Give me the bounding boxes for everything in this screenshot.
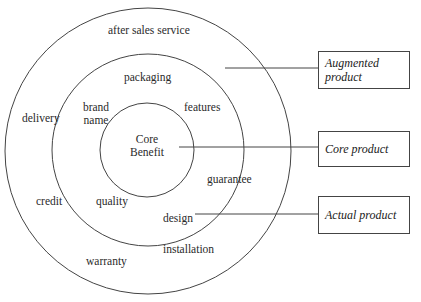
- augmented-box-line1: Augmented: [325, 56, 403, 70]
- actual-product-box: Actual product: [318, 196, 410, 234]
- label-warranty: warranty: [86, 255, 127, 268]
- label-installation: installation: [163, 243, 214, 256]
- augmented-product-box: Augmented product: [318, 51, 410, 89]
- label-design: design: [163, 212, 193, 225]
- core-product-box: Core product: [318, 131, 410, 167]
- label-quality: quality: [96, 195, 128, 208]
- brand-line1: brand: [76, 101, 116, 114]
- label-packaging: packaging: [124, 71, 171, 84]
- core-label-line1: Core: [122, 133, 172, 146]
- label-after-sales-service: after sales service: [108, 24, 190, 37]
- core-benefit-label: Core Benefit: [122, 133, 172, 159]
- label-guarantee: guarantee: [207, 173, 252, 186]
- label-delivery: delivery: [22, 112, 60, 125]
- label-features: features: [184, 101, 220, 114]
- augmented-box-line2: product: [325, 70, 403, 84]
- actual-product-box-label: Actual product: [325, 208, 396, 222]
- brand-line2: name: [76, 114, 116, 127]
- label-brand-name: brand name: [76, 101, 116, 127]
- core-label-line2: Benefit: [122, 146, 172, 159]
- label-credit: credit: [36, 195, 62, 208]
- core-product-box-label: Core product: [325, 142, 388, 156]
